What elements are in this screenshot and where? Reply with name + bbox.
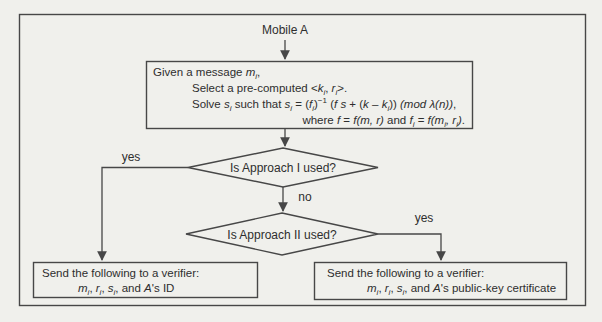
left-output-box: Send the following to a verifier: mi, ri… [33, 262, 258, 298]
left-output-line-1: Send the following to a verifier: [33, 266, 258, 281]
right-output-line-2: mi, ri, si, and A's public-key certifica… [314, 281, 567, 296]
process-line-2: Select a pre-computed <ki, ri>. [146, 80, 472, 96]
decision-2-yes-label: yes [404, 211, 444, 225]
decision-1-question: Is Approach I used? [188, 161, 378, 175]
left-output-line-2: mi, ri, si, and A's ID [33, 281, 258, 296]
arrow-decision-1-yes-to-left-box [102, 168, 188, 261]
flowchart-canvas: Mobile A Given a message mi, Select a pr… [0, 0, 602, 322]
decision-1-yes-label: yes [116, 150, 146, 164]
arrow-decision-2-yes-to-right-box [378, 234, 441, 260]
process-line-1: Given a message mi, [146, 64, 472, 80]
decision-1-no-label: no [290, 190, 320, 204]
process-box: Given a message mi, Select a pre-compute… [146, 62, 472, 129]
process-line-3: Solve si such that si = (fi)−1 (f s + (k… [146, 96, 472, 112]
start-node-label: Mobile A [235, 23, 335, 37]
right-output-line-1: Send the following to a verifier: [314, 266, 567, 281]
process-line-4: where f = f(m, r) and fi = f(mi, ri). [146, 112, 472, 128]
decision-2-question: Is Approach II used? [186, 228, 378, 242]
right-output-box: Send the following to a verifier: mi, ri… [314, 262, 567, 300]
